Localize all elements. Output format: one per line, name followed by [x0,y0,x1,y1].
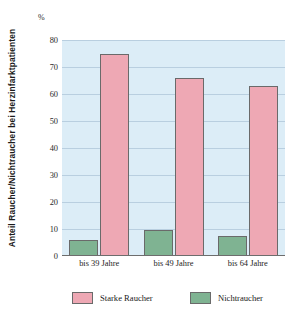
bar-nichtraucher-2 [144,230,173,256]
y-tick-label-40: 40 [32,144,58,153]
y-tick-label-80: 80 [32,36,58,45]
y-axis-label: Anteil Raucher/Nichtraucher bei Herzinfa… [7,8,17,268]
y-axis-label-container: Anteil Raucher/Nichtraucher bei Herzinfa… [0,0,22,285]
legend-item-nichtraucher[interactable]: Nichtraucher [190,292,263,304]
y-tick-label-50: 50 [32,117,58,126]
legend-label-1: Starke Raucher [100,293,153,303]
y-tick-label-30: 30 [32,171,58,180]
bar-starke-raucher-3 [249,86,278,256]
y-axis-tick-labels: 01020304050607080 [30,40,58,256]
x-axis-label-3: bis 64 Jahre [211,259,285,268]
bar-nichtraucher-3 [218,236,247,256]
bar-chart-figure: Anteil Raucher/Nichtraucher bei Herzinfa… [0,0,300,321]
bar-starke-raucher-2 [175,78,204,256]
y-tick-label-20: 20 [32,198,58,207]
chart-legend: Starke RaucherNichtraucher [62,292,288,314]
y-tick-label-0: 0 [32,252,58,261]
plot-inner [62,40,285,256]
x-axis-label-2: bis 49 Jahre [136,259,210,268]
bar-starke-raucher-1 [100,54,129,257]
x-axis-category-labels: bis 39 Jahrebis 49 Jahrebis 64 Jahre [62,259,285,275]
y-tick-label-10: 10 [32,225,58,234]
x-axis-line [62,255,285,256]
legend-swatch-2 [190,292,211,304]
gridline-70 [62,67,285,68]
y-tick-label-70: 70 [32,63,58,72]
y-axis-unit-label: % [38,13,45,22]
gridline-80 [62,40,285,41]
legend-label-2: Nichtraucher [218,293,263,303]
plot-area [62,40,285,256]
bar-nichtraucher-1 [69,240,98,256]
x-axis-label-1: bis 39 Jahre [62,259,136,268]
y-tick-label-60: 60 [32,90,58,99]
legend-item-starke-raucher[interactable]: Starke Raucher [72,292,153,304]
legend-swatch-1 [72,292,93,304]
